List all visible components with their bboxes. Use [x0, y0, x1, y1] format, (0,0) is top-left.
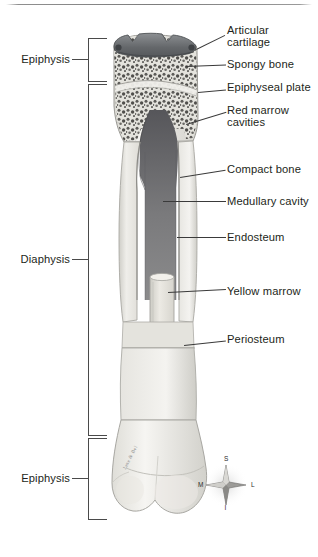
bracket-epiphysis-proximal [88, 38, 107, 82]
orientation-compass [204, 463, 248, 507]
callout-compact-bone: Compact bone [227, 163, 315, 175]
callout-articular-cartilage: Articular cartilage [227, 24, 315, 49]
callout-yellow-marrow: Yellow marrow [227, 285, 317, 297]
endosteum-right-line [178, 142, 179, 300]
region-label-epiphysis-proximal: Epiphysis [6, 53, 70, 65]
callout-periosteum: Periosteum [227, 333, 315, 345]
bracket-epiphysis-distal [88, 438, 107, 520]
compass-superior-letter: S [224, 455, 228, 462]
bracket-tick-epiphysis-proximal [72, 59, 88, 60]
medullary-cavity-shape [140, 110, 178, 300]
compass-medial-letter: M [198, 481, 203, 488]
callout-endosteum: Endosteum [227, 231, 315, 243]
leader-medullary-cavity [163, 201, 226, 202]
bracket-tick-diaphysis [72, 259, 88, 260]
compass-inferior-letter: I [225, 504, 227, 511]
callout-epiphyseal-plate: Epiphyseal plate [227, 81, 317, 93]
callout-medullary-cavity: Medullary cavity [227, 195, 317, 207]
callout-spongy-bone: Spongy bone [227, 58, 315, 70]
region-label-epiphysis-distal: Epiphysis [6, 472, 70, 484]
callout-red-marrow-cavities: Red marrow cavities [227, 104, 315, 129]
region-label-diaphysis: Diaphysis [6, 253, 70, 265]
distal-shaft [120, 348, 196, 420]
figure-canvas: Jane & Bel S I M L Epiphysis Diaphysis E… [0, 0, 318, 557]
compact-bone-right-wall [178, 141, 197, 322]
leader-endosteum [177, 237, 226, 238]
bracket-diaphysis [88, 84, 107, 436]
bracket-tick-epiphysis-distal [72, 478, 88, 479]
compass-lateral-letter: L [251, 481, 255, 488]
